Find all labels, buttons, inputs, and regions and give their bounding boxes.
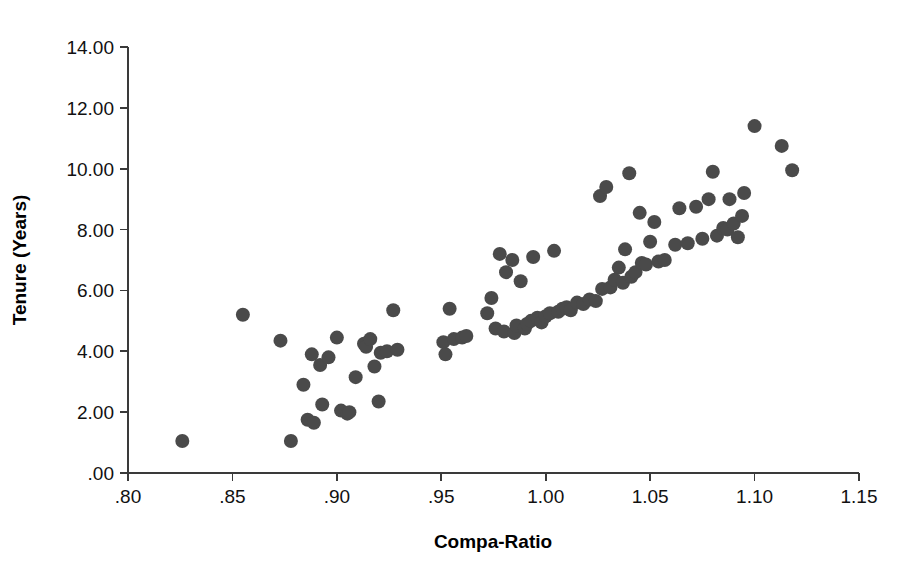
x-axis-title: Compa-Ratio — [434, 531, 552, 552]
data-point — [386, 303, 400, 317]
data-point — [459, 329, 473, 343]
y-tick-label: 14.00 — [66, 37, 114, 58]
y-axis-title: Tenure (Years) — [9, 195, 30, 326]
y-tick-label: 10.00 — [66, 159, 114, 180]
data-point — [315, 398, 329, 412]
x-tick-label: 1.10 — [736, 486, 773, 507]
data-point — [658, 253, 672, 267]
data-point — [785, 163, 799, 177]
data-point — [505, 253, 519, 267]
data-points — [175, 119, 799, 448]
data-point — [443, 302, 457, 316]
data-point — [612, 261, 626, 275]
data-point — [737, 186, 751, 200]
data-point — [689, 200, 703, 214]
data-point — [363, 332, 377, 346]
data-point — [647, 215, 661, 229]
scatter-plot-figure: .80.85.90.951.001.051.101.15 .002.004.00… — [0, 0, 908, 578]
data-point — [493, 247, 507, 261]
data-point — [589, 294, 603, 308]
data-point — [349, 370, 363, 384]
data-point — [748, 119, 762, 133]
data-point — [499, 265, 513, 279]
data-point — [723, 192, 737, 206]
axes — [128, 47, 859, 473]
data-point — [514, 274, 528, 288]
data-point — [342, 405, 356, 419]
data-point — [547, 244, 561, 258]
data-point — [618, 242, 632, 256]
x-tick-label: .95 — [428, 486, 454, 507]
y-tick-label: 12.00 — [66, 98, 114, 119]
data-point — [731, 230, 745, 244]
data-point — [390, 343, 404, 357]
y-tick-label: 6.00 — [77, 280, 114, 301]
x-axis-tick-labels: .80.85.90.951.001.051.101.15 — [115, 486, 878, 507]
data-point — [668, 238, 682, 252]
data-point — [643, 235, 657, 249]
data-point — [702, 192, 716, 206]
x-tick-label: 1.05 — [632, 486, 669, 507]
data-point — [322, 350, 336, 364]
x-tick-label: .85 — [219, 486, 245, 507]
data-point — [175, 434, 189, 448]
data-point — [484, 291, 498, 305]
chart-canvas: .80.85.90.951.001.051.101.15 .002.004.00… — [0, 0, 908, 578]
data-point — [367, 360, 381, 374]
data-point — [633, 206, 647, 220]
data-point — [735, 209, 749, 223]
data-point — [236, 308, 250, 322]
x-tick-label: 1.00 — [527, 486, 564, 507]
data-point — [273, 334, 287, 348]
y-tick-label: 8.00 — [77, 220, 114, 241]
data-point — [672, 201, 686, 215]
data-point — [438, 347, 452, 361]
data-point — [599, 180, 613, 194]
x-tick-label: .90 — [324, 486, 350, 507]
tick-marks — [120, 47, 859, 481]
y-tick-label: 4.00 — [77, 341, 114, 362]
data-point — [706, 165, 720, 179]
data-point — [639, 258, 653, 272]
data-point — [681, 236, 695, 250]
data-point — [526, 250, 540, 264]
data-point — [775, 139, 789, 153]
data-point — [296, 378, 310, 392]
data-point — [284, 434, 298, 448]
data-point — [372, 394, 386, 408]
data-point — [330, 331, 344, 345]
y-tick-label: .00 — [88, 463, 114, 484]
y-axis-tick-labels: .002.004.006.008.0010.0012.0014.00 — [66, 37, 114, 484]
data-point — [695, 232, 709, 246]
data-point — [307, 416, 321, 430]
x-tick-label: 1.15 — [841, 486, 878, 507]
y-tick-label: 2.00 — [77, 402, 114, 423]
x-tick-label: .80 — [115, 486, 141, 507]
data-point — [480, 306, 494, 320]
data-point — [622, 166, 636, 180]
